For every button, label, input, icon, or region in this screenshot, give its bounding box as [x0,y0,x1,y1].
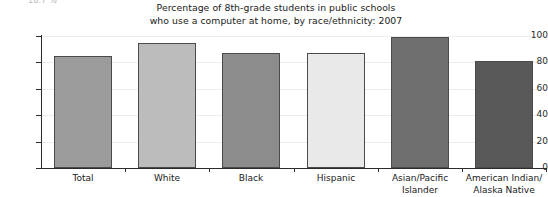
x-axis-label-line: Hispanic [294,173,378,185]
chart-title: Percentage of 8th-grade students in publ… [126,2,426,27]
x-axis-label-line: Islander [378,185,462,197]
x-axis-category-label: American Indian/Alaska Native [462,173,546,196]
gridline [41,62,546,63]
gridline [41,142,546,143]
x-axis-line [41,168,546,169]
y-axis-line [41,35,42,169]
x-axis-tick [546,168,547,172]
gridline [41,89,546,90]
bar [307,53,365,168]
x-axis-label-line: Total [41,173,125,185]
x-axis-category-label: Black [209,173,293,185]
x-axis-label-line: Asian/Pacific [378,173,462,185]
bar-chart-figure: 18.7 % Percentage of 8th-grade students … [0,0,548,197]
chart-title-line-2: who use a computer at home, by race/ethn… [126,15,426,28]
gridline [41,36,546,37]
x-axis-label-line: White [125,173,209,185]
bar [138,43,196,168]
chart-title-line-1: Percentage of 8th-grade students in publ… [126,2,426,15]
bar [54,56,112,168]
x-axis-label-line: Alaska Native [462,185,546,197]
x-axis-category-label: Hispanic [294,173,378,185]
x-axis-label-line: American Indian/ [462,173,546,185]
x-axis-category-label: White [125,173,209,185]
x-axis-label-line: Black [209,173,293,185]
x-axis-category-label: Total [41,173,125,185]
bar [391,37,449,168]
y-axis-tick-label: 100 [520,31,548,40]
bar [475,61,533,168]
cutoff-text-fragment: 18.7 % [28,0,57,5]
gridline [41,115,546,116]
bar [222,53,280,168]
x-axis-category-label: Asian/PacificIslander [378,173,462,196]
